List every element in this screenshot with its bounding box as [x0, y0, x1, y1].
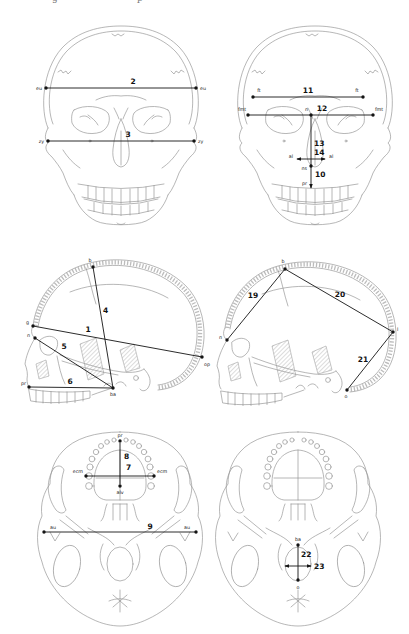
measurement-label-1: 1 — [85, 325, 90, 334]
landmark-label-ecm-left: ecm — [73, 469, 84, 474]
landmark-dot-ns — [309, 164, 312, 167]
landmark-label-o: o — [297, 585, 300, 590]
figure-page: g p 2 eu eu 3 zy zy 11 ft ft — [0, 0, 409, 634]
landmark-label-n: n — [27, 333, 30, 338]
landmark-label-al-right: al — [329, 154, 333, 159]
landmark-dot-ba — [296, 543, 299, 546]
measurement-label-12: 12 — [317, 104, 327, 113]
measurement-label-13: 13 — [314, 139, 324, 148]
landmark-dot-au-left — [42, 530, 45, 533]
landmark-dot-n — [225, 338, 228, 341]
measurement-label-7: 7 — [126, 463, 131, 472]
frontal-skull-drawing — [44, 26, 199, 225]
panel-basal-right: 22 23 ba o — [216, 432, 381, 626]
measurement-label-2: 2 — [130, 77, 135, 86]
measurement-label-23: 23 — [314, 562, 324, 571]
landmark-dot-ecm-right — [152, 474, 155, 477]
landmark-label-ba: ba — [295, 537, 301, 542]
landmark-dot-o — [296, 578, 299, 581]
lateral-skull-drawing — [217, 262, 396, 406]
landmark-label-op: op — [204, 362, 210, 367]
landmark-label-au-left: au — [50, 525, 56, 530]
landmark-label-ns: ns — [301, 166, 307, 171]
landmark-label-zy-right: zy — [198, 139, 204, 144]
landmark-dot-pr — [27, 385, 30, 388]
landmark-dot-l — [391, 330, 394, 333]
landmark-label-pr: pr — [21, 381, 26, 386]
landmark-dot-n — [33, 336, 36, 339]
landmark-label-fmt-right: fmt — [375, 107, 383, 112]
landmark-dot-au-right — [194, 530, 197, 533]
measurement-label-14: 14 — [314, 148, 324, 157]
measurement-label-19: 19 — [248, 291, 258, 300]
landmark-dot-b — [283, 267, 286, 270]
panel-frontal-left: 2 eu eu 3 zy zy — [36, 26, 206, 225]
measurement-2: 2 eu eu — [36, 77, 206, 91]
landmark-label-au-right: au — [184, 525, 190, 530]
measurement-11: 11 ft ft — [251, 86, 364, 99]
landmark-dot-o — [345, 388, 348, 391]
landmark-label-alv: alv — [116, 490, 123, 495]
landmark-label-o: o — [345, 394, 348, 399]
landmark-dot-alv — [118, 484, 121, 487]
landmark-dot-pr — [118, 439, 121, 442]
landmark-label-zy-left: zy — [39, 139, 45, 144]
landmark-dot-ba — [111, 386, 114, 389]
measurement-label-21: 21 — [358, 355, 368, 364]
measurement-label-5: 5 — [61, 342, 66, 351]
measurement-label-22: 22 — [301, 550, 311, 559]
panel-lateral-right: 19 20 21 b n l o — [217, 259, 398, 406]
measurement-label-8: 8 — [124, 452, 129, 461]
landmark-label-eu-left: eu — [36, 86, 42, 91]
measurement-label-10: 10 — [315, 170, 325, 179]
landmark-label-ecm-right: ecm — [157, 469, 168, 474]
measurement-line-21 — [347, 332, 393, 390]
measurement-line-20 — [285, 269, 393, 332]
landmark-label-b: b — [88, 258, 91, 263]
frontal-skull-drawing — [238, 26, 393, 225]
landmark-label-g: g — [26, 320, 29, 325]
figure-canvas: g p 2 eu eu 3 zy zy 11 ft ft — [0, 0, 409, 634]
landmark-dot-g — [31, 324, 34, 327]
panel-frontal-right: 11 ft ft 12 fmt fmt n 13 10 ns pr 14 al … — [238, 26, 393, 225]
landmark-label-l: l — [397, 327, 398, 332]
landmark-label-ba: ba — [110, 392, 116, 397]
measurement-line-6 — [29, 387, 113, 388]
lateral-skull-drawing — [25, 260, 204, 404]
panel-basal-left: 8 7 9 pr alv ecm ecm au au — [38, 432, 203, 626]
measurement-label-20: 20 — [335, 290, 345, 299]
top-caption-fragments: g p — [52, 0, 143, 3]
landmark-label-b: b — [281, 259, 284, 264]
landmark-label-ft-left: ft — [257, 88, 261, 93]
landmark-dot-op — [200, 355, 203, 358]
measurement-label-9: 9 — [147, 522, 152, 531]
basal-skull-drawing — [216, 432, 381, 626]
landmark-label-pr: pr — [302, 181, 307, 186]
measurement-label-6: 6 — [67, 377, 72, 386]
landmark-label-pr: pr — [117, 433, 122, 438]
landmark-dot-ecm-left — [84, 474, 87, 477]
landmark-label-n: n — [305, 107, 308, 112]
landmark-label-n: n — [219, 335, 222, 340]
measurement-label-3: 3 — [125, 130, 130, 139]
measurement-line-1 — [33, 326, 202, 357]
landmark-label-eu-right: eu — [200, 86, 206, 91]
measurement-label-4: 4 — [103, 306, 108, 315]
caption-fragment-1: g — [52, 0, 58, 3]
panel-lateral-left: 1 4 5 6 b g n pr ba op — [21, 258, 210, 404]
landmark-label-ft-right: ft — [355, 88, 359, 93]
caption-fragment-2: p — [137, 0, 143, 3]
landmark-label-fmt-left: fmt — [238, 107, 246, 112]
measurement-label-11: 11 — [303, 86, 313, 95]
landmark-dot-b — [91, 265, 94, 268]
measurement-12: 12 fmt fmt n — [238, 104, 383, 117]
landmark-label-al-left: al — [289, 154, 293, 159]
